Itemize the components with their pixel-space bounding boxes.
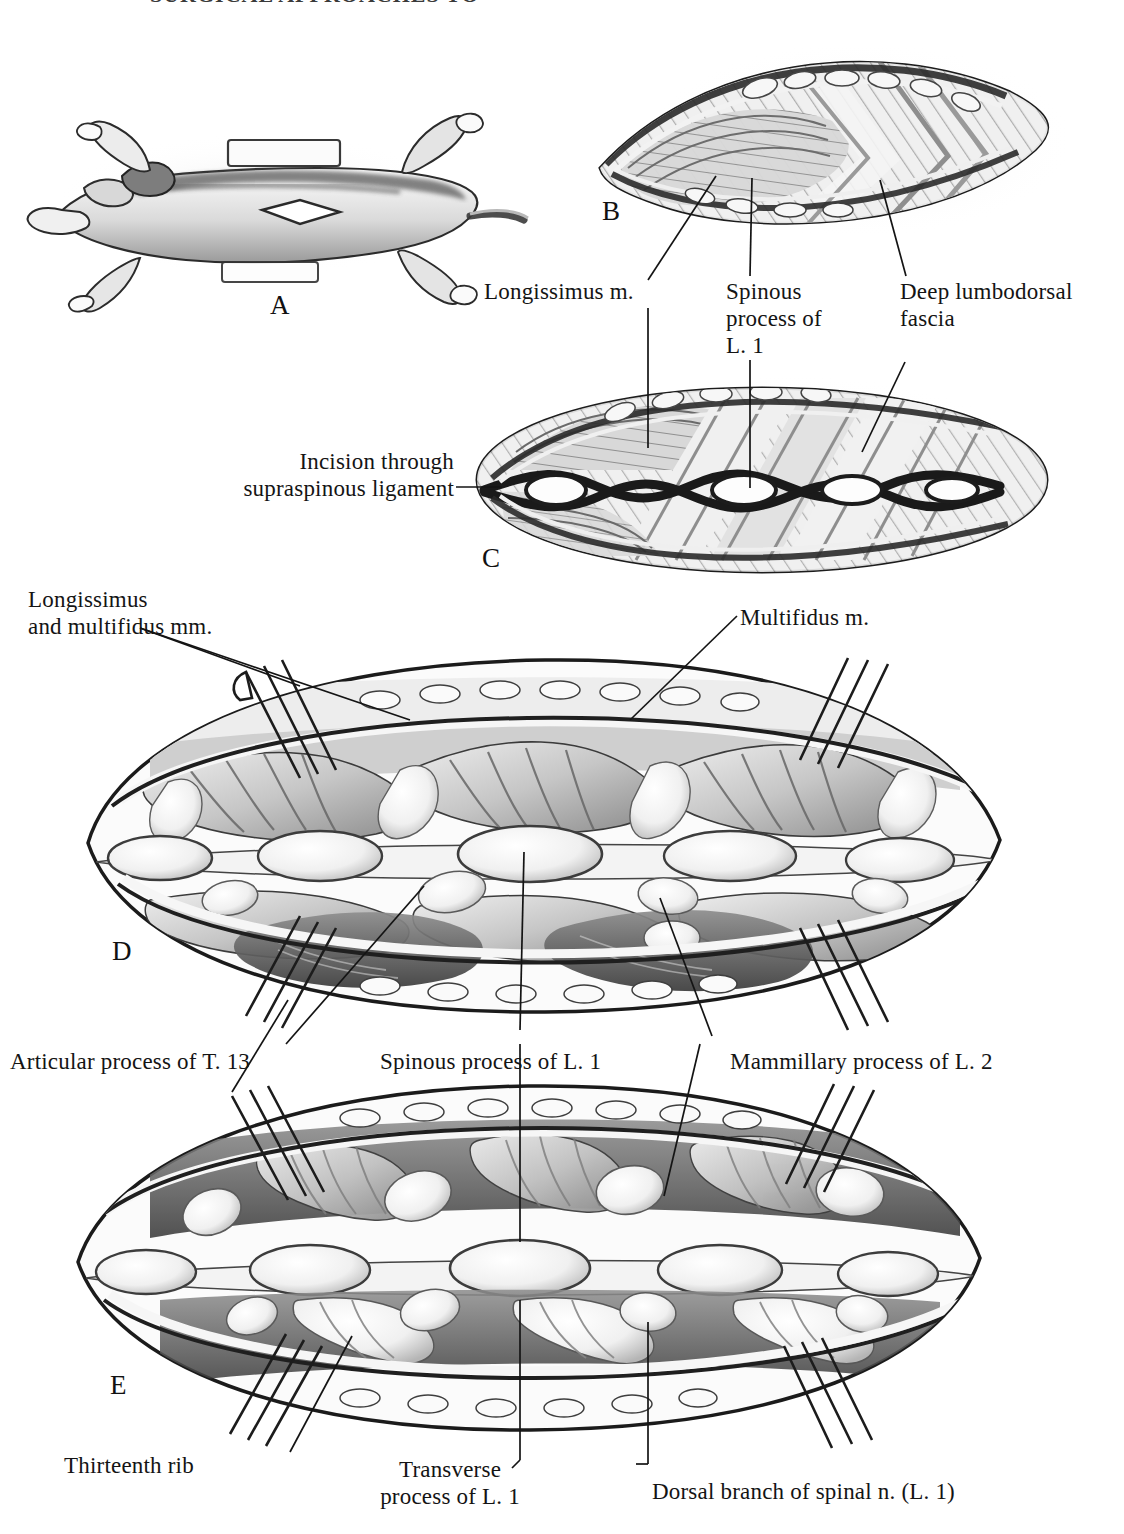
plate-title-clipped: SURGICAL APPROACHES TO THE SPINE — [150, 0, 480, 6]
panel-letter-b: B — [602, 198, 620, 225]
spinous-process-row-d — [96, 826, 1000, 882]
label-deep-lumbodorsal-fascia: Deep lumbodorsal fascia — [900, 278, 1072, 332]
panel-c-artwork — [470, 374, 1060, 575]
retractor-d-bottom-right — [800, 920, 888, 1030]
label-spinous-process-of-l1-d: Spinous process of L. 1 — [380, 1048, 601, 1075]
retractor-e-bottom-left — [230, 1334, 322, 1446]
label-dorsal-branch-of-spinal-n-l1: Dorsal branch of spinal n. (L. 1) — [652, 1478, 955, 1505]
panel-letter-d: D — [112, 938, 132, 965]
label-longissimus-and-multifidus-mm: Longissimus and multifidus mm. — [28, 586, 212, 640]
supraspinous-ligament — [484, 474, 1000, 508]
label-transverse-process-of-l1: Transverse process of L. 1 — [340, 1456, 560, 1510]
spinous-process-row-e — [86, 1240, 976, 1296]
panel-letter-a: A — [270, 292, 290, 319]
panel-letter-e: E — [110, 1372, 127, 1399]
panel-a-artwork — [28, 114, 528, 312]
plate-artwork — [0, 0, 1124, 1534]
retractor-e-top-right — [786, 1084, 874, 1192]
label-spinous-process-of-l1: Spinous process of L. 1 — [726, 278, 822, 359]
panel-e-artwork — [78, 1083, 980, 1448]
label-articular-process-of-t13: Articular process of T. 13 — [10, 1048, 250, 1075]
plate-title-text: SURGICAL APPROACHES TO THE SPINE — [150, 0, 480, 6]
label-incision-through-supraspinous-ligament: Incision through supraspinous ligament — [186, 448, 454, 502]
label-thirteenth-rib: Thirteenth rib — [64, 1452, 194, 1479]
retractor-e-bottom-right — [784, 1338, 872, 1448]
label-mammillary-process-of-l2: Mammillary process of L. 2 — [730, 1048, 993, 1075]
label-multifidus-m: Multifidus m. — [740, 604, 869, 631]
retractor-d-bottom-left — [246, 916, 336, 1028]
leader-lines — [140, 176, 906, 1468]
panel-d-artwork — [88, 658, 1000, 1030]
retractor-d-top-left — [234, 660, 336, 778]
panel-b-artwork — [590, 30, 1075, 250]
illustration-plate: SURGICAL APPROACHES TO THE SPINE — [0, 0, 1124, 1534]
panel-letter-c: C — [482, 545, 500, 572]
label-longissimus-m: Longissimus m. — [484, 278, 634, 305]
skin-incision-outline — [262, 200, 340, 224]
retractor-e-top-left — [232, 1086, 324, 1200]
retractor-d-top-right — [800, 658, 888, 768]
